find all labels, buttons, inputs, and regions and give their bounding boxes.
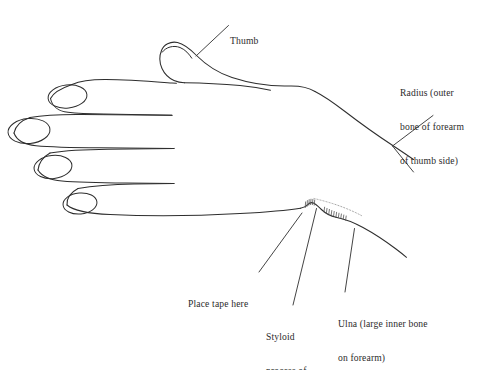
thumbnail — [162, 46, 192, 58]
little-fingernail — [62, 192, 98, 216]
index-finger-tip-curve — [51, 85, 73, 99]
label-styloid-line-2: process of — [266, 365, 327, 370]
ring-finger-tip-curve — [38, 153, 50, 170]
index-finger-underside — [51, 99, 173, 116]
hatch-tick — [314, 200, 315, 205]
ring-finger-outline — [50, 148, 174, 153]
middle-finger — [7, 114, 174, 148]
leader-line-ulna — [345, 229, 355, 293]
hatch-tick — [334, 211, 335, 215]
label-styloid-line-1: Styloid — [266, 331, 327, 342]
hatch-tick — [343, 215, 344, 219]
hatch-tick — [338, 213, 339, 217]
label-ulna-line-2: on forearm) — [338, 352, 428, 363]
label-radius: Radius (outer bone of forearm of thumb s… — [400, 64, 464, 189]
index-fingernail — [47, 83, 88, 110]
index-finger — [47, 80, 177, 116]
hatch-tick — [341, 214, 342, 218]
label-thumb-line-1: Thumb — [230, 35, 258, 46]
hatch-tick — [312, 199, 313, 204]
hand-lower-edge — [67, 205, 301, 216]
label-place-tape-line-1: Place tape here — [188, 298, 248, 309]
hatch-tick — [324, 207, 325, 212]
wrist-crease-stipple — [314, 199, 362, 216]
label-ulna-line-1: Ulna (large inner bone — [338, 318, 428, 329]
ring-finger-underside — [38, 170, 174, 184]
index-finger-outline — [72, 80, 177, 85]
hatch-tick — [336, 212, 337, 216]
label-radius-line-3: of thumb side) — [400, 155, 464, 166]
wrist-styloid-bump — [301, 203, 337, 218]
ring-finger — [33, 148, 174, 183]
label-ulna: Ulna (large inner bone on forearm) — [338, 295, 428, 370]
middle-fingernail — [7, 117, 51, 146]
label-radius-line-1: Radius (outer — [400, 87, 464, 98]
hatch-tick — [331, 211, 332, 216]
leader-line-styloid — [293, 209, 317, 306]
middle-finger-outline — [30, 114, 172, 117]
thumb-bottom-contour — [160, 51, 185, 83]
hatch-tick — [329, 209, 330, 214]
leader-line-thumb — [196, 26, 229, 57]
hand-back-top-edge — [315, 92, 414, 160]
label-radius-line-2: bone of forearm — [400, 121, 464, 132]
leader-line-place-tape — [259, 213, 302, 272]
hand-anatomy-diagram: Thumb Radius (outer bone of forearm of t… — [0, 0, 491, 370]
label-thumb: Thumb — [230, 12, 258, 69]
forearm-lower-edge — [336, 217, 407, 257]
label-styloid-process: Styloid process of ulna and radius (wris… — [266, 308, 327, 370]
little-finger-outline — [78, 184, 174, 189]
middle-finger-underside — [14, 133, 174, 148]
label-place-tape-here: Place tape here — [188, 275, 248, 332]
hatch-tick — [326, 208, 327, 213]
